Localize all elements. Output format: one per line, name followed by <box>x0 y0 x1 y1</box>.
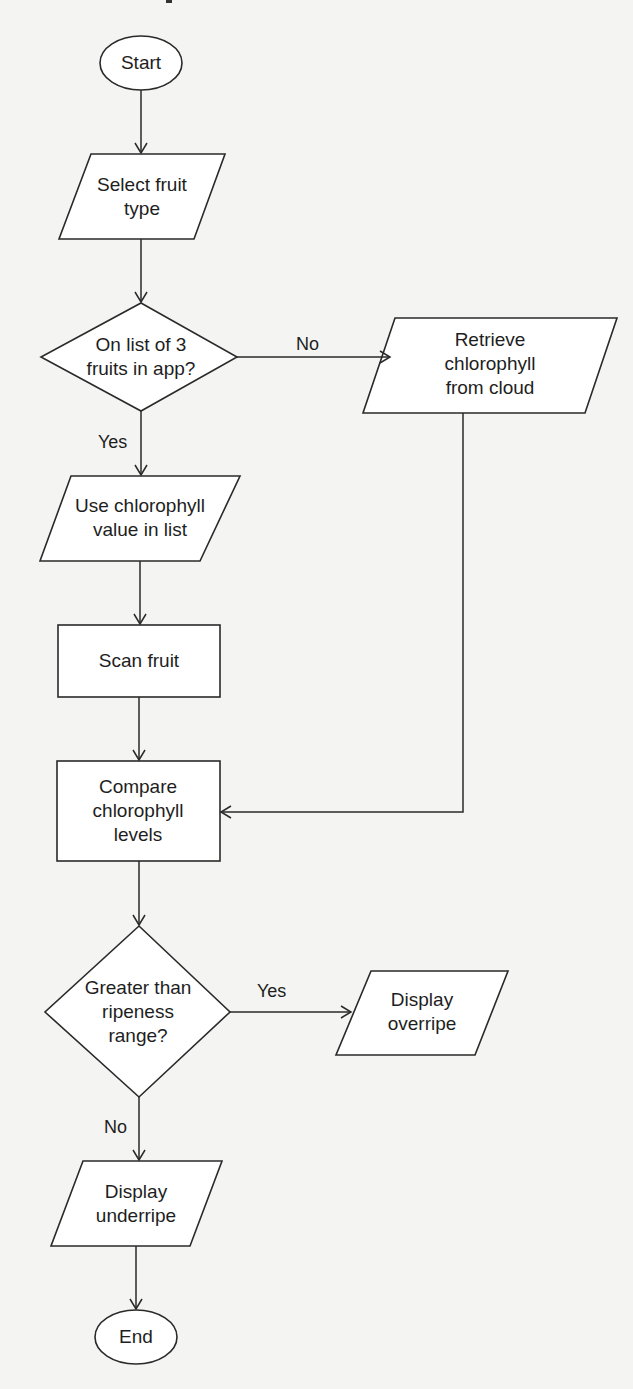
select-fruit-label: Select fruit type <box>97 173 187 221</box>
retrieve-cloud-label: Retrieve chlorophyll from cloud <box>419 328 562 400</box>
edge-retrieve-to-compare <box>221 413 463 818</box>
scan-fruit-label: Scan fruit <box>99 649 179 673</box>
edge-use-value-to-scan <box>134 561 146 624</box>
display-overripe-label: Display overripe <box>388 988 457 1036</box>
edge-select-to-decision1 <box>135 239 147 302</box>
edge-decision2-no-to-underripe <box>133 1097 145 1160</box>
edge-label-no-1: No <box>296 334 319 354</box>
edge-underripe-to-end <box>130 1246 142 1309</box>
edge-label-yes-2: Yes <box>257 981 286 1001</box>
display-underripe-label: Display underripe <box>96 1180 176 1228</box>
on-list-label: On list of 3 fruits in app? <box>87 333 196 381</box>
edge-decision2-yes-to-overripe <box>230 1006 351 1018</box>
edge-compare-to-decision2 <box>133 861 145 925</box>
edge-scan-to-compare <box>133 697 145 760</box>
edge-label-no-2: No <box>104 1117 127 1137</box>
edge-decision1-yes-to-use-value <box>135 411 147 475</box>
greater-than-label: Greater than ripeness range? <box>85 976 192 1048</box>
start-label: Start <box>121 51 161 75</box>
use-value-label: Use chlorophyll value in list <box>75 494 205 542</box>
end-label: End <box>119 1325 153 1349</box>
edge-start-to-select <box>135 90 147 153</box>
flowchart-canvas: Start Select fruit type On list of 3 fru… <box>0 0 633 1389</box>
compare-label: Compare chlorophyll levels <box>93 775 184 847</box>
edge-label-yes-1: Yes <box>98 432 127 452</box>
